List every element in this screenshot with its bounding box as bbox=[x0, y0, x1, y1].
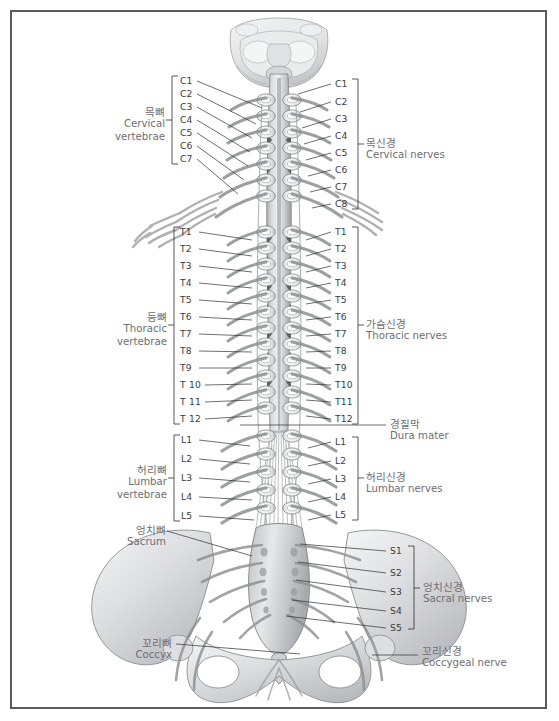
segment-label-right-s1: S1 bbox=[390, 546, 402, 556]
segment-label-left-t3: T3 bbox=[180, 261, 192, 271]
segment-label-right-t5: T5 bbox=[335, 295, 347, 305]
segment-label-right-t7: T7 bbox=[335, 329, 347, 339]
segment-label-right-c4: C4 bbox=[335, 131, 348, 141]
group-label-coccyx-kr: 꼬리뼈 bbox=[62, 637, 172, 649]
segment-label-left-t6: T6 bbox=[180, 312, 192, 322]
group-label-cervical-vertebrae: 목뼈 Cervical vertebrae bbox=[60, 106, 165, 143]
segment-label-right-t10: T10 bbox=[335, 380, 353, 390]
segment-label-left-t12: T 12 bbox=[180, 414, 201, 424]
segment-label-left-l1: L1 bbox=[181, 435, 192, 445]
group-label-thoracic-vertebrae-kr: 등뼈 bbox=[62, 311, 167, 323]
group-label-coccygeal-nerve: 꼬리신경 Coccygeal nerve bbox=[422, 645, 507, 670]
segment-label-left-c2: C2 bbox=[180, 89, 193, 99]
segment-label-left-t11: T 11 bbox=[180, 397, 201, 407]
group-label-cervical-nerves: 목신경 Cervical nerves bbox=[366, 137, 445, 162]
segment-label-right-t11: T11 bbox=[335, 397, 353, 407]
group-label-sacral-nerves-kr: 엉치신경 bbox=[423, 581, 492, 593]
group-label-lumbar-vertebrae-en: Lumbar bbox=[62, 476, 167, 488]
segment-label-right-c8: C8 bbox=[335, 199, 348, 209]
segment-label-left-t7: T7 bbox=[180, 329, 192, 339]
group-label-dura-mater-en: Dura mater bbox=[390, 430, 449, 442]
segment-label-left-t1: T1 bbox=[180, 227, 192, 237]
segment-label-left-l5: L5 bbox=[181, 511, 192, 521]
figure-page: C1 C2 C3 C4 C5 C6 C7 T1 T2 T3 T4 T5 T6 T… bbox=[0, 0, 559, 721]
group-label-lumbar-nerves: 허리신경 Lumbar nerves bbox=[366, 471, 443, 496]
group-label-coccyx-en: Coccyx bbox=[62, 649, 172, 661]
segment-label-left-c3: C3 bbox=[180, 102, 193, 112]
segment-label-right-t4: T4 bbox=[335, 278, 347, 288]
segment-label-right-t2: T2 bbox=[335, 244, 347, 254]
group-label-thoracic-vertebrae: 등뼈 Thoracic vertebrae bbox=[62, 311, 167, 348]
segment-label-left-l2: L2 bbox=[181, 454, 192, 464]
segment-label-right-t3: T3 bbox=[335, 261, 347, 271]
segment-label-right-l2: L2 bbox=[335, 456, 346, 466]
segment-label-left-c6: C6 bbox=[180, 141, 193, 151]
segment-label-left-c1: C1 bbox=[180, 76, 193, 86]
segment-label-right-s3: S3 bbox=[390, 587, 402, 597]
segment-label-right-l3: L3 bbox=[335, 474, 346, 484]
segment-label-left-t2: T2 bbox=[180, 244, 192, 254]
segment-label-left-l3: L3 bbox=[181, 473, 192, 483]
group-label-lumbar-vertebrae: 허리뼈 Lumbar vertebrae bbox=[62, 464, 167, 501]
group-label-cervical-vertebrae-en2: vertebrae bbox=[60, 131, 165, 143]
group-label-cervical-vertebrae-kr: 목뼈 bbox=[60, 106, 165, 118]
segment-label-right-c2: C2 bbox=[335, 97, 348, 107]
segment-label-left-c5: C5 bbox=[180, 128, 193, 138]
segment-label-right-s4: S4 bbox=[390, 606, 402, 616]
group-label-cervical-vertebrae-en: Cervical bbox=[60, 118, 165, 130]
group-label-thoracic-vertebrae-en: Thoracic bbox=[62, 323, 167, 335]
segment-label-left-c4: C4 bbox=[180, 115, 193, 125]
segment-label-right-l4: L4 bbox=[335, 492, 346, 502]
segment-label-right-s2: S2 bbox=[390, 568, 402, 578]
segment-label-right-l5: L5 bbox=[335, 510, 346, 520]
segment-label-right-c1: C1 bbox=[335, 79, 348, 89]
group-label-lumbar-nerves-en: Lumbar nerves bbox=[366, 483, 443, 495]
group-label-sacrum-kr: 엉치뼈 bbox=[62, 524, 166, 536]
group-label-sacral-nerves-en: Sacral nerves bbox=[423, 593, 492, 605]
segment-label-right-c5: C5 bbox=[335, 148, 348, 158]
group-label-lumbar-vertebrae-kr: 허리뼈 bbox=[62, 464, 167, 476]
segment-label-right-t12: T12 bbox=[335, 414, 353, 424]
group-label-thoracic-vertebrae-en2: vertebrae bbox=[62, 336, 167, 348]
group-label-thoracic-nerves-en: Thoracic nerves bbox=[366, 330, 447, 342]
segment-label-right-c3: C3 bbox=[335, 114, 348, 124]
segment-label-left-t9: T9 bbox=[180, 363, 192, 373]
group-label-lumbar-nerves-kr: 허리신경 bbox=[366, 471, 443, 483]
segment-label-right-c6: C6 bbox=[335, 165, 348, 175]
segment-label-left-c7: C7 bbox=[180, 154, 193, 164]
group-label-cervical-nerves-kr: 목신경 bbox=[366, 137, 445, 149]
group-label-dura-mater: 경질막 Dura mater bbox=[390, 418, 449, 443]
segment-label-right-t8: T8 bbox=[335, 346, 347, 356]
group-label-sacral-nerves: 엉치신경 Sacral nerves bbox=[423, 581, 492, 606]
segment-label-right-s5: S5 bbox=[390, 623, 402, 633]
group-label-sacrum: 엉치뼈 Sacrum bbox=[62, 524, 166, 549]
segment-label-left-t10: T 10 bbox=[180, 380, 201, 390]
segment-label-right-t9: T9 bbox=[335, 363, 347, 373]
segment-label-left-t5: T5 bbox=[180, 295, 192, 305]
segment-label-left-t4: T4 bbox=[180, 278, 192, 288]
segment-label-right-t6: T6 bbox=[335, 312, 347, 322]
group-label-lumbar-vertebrae-en2: vertebrae bbox=[62, 489, 167, 501]
group-label-thoracic-nerves-kr: 가슴신경 bbox=[366, 318, 447, 330]
segment-label-left-l4: L4 bbox=[181, 492, 192, 502]
group-label-sacrum-en: Sacrum bbox=[62, 536, 166, 548]
group-label-coccyx: 꼬리뼈 Coccyx bbox=[62, 637, 172, 662]
group-label-thoracic-nerves: 가슴신경 Thoracic nerves bbox=[366, 318, 447, 343]
segment-label-left-t8: T8 bbox=[180, 346, 192, 356]
group-label-dura-mater-kr: 경질막 bbox=[390, 418, 449, 430]
segment-label-right-t1: T1 bbox=[335, 227, 347, 237]
segment-label-right-c7: C7 bbox=[335, 182, 348, 192]
group-label-cervical-nerves-en: Cervical nerves bbox=[366, 149, 445, 161]
group-label-coccygeal-nerve-en: Coccygeal nerve bbox=[422, 657, 507, 669]
group-label-coccygeal-nerve-kr: 꼬리신경 bbox=[422, 645, 507, 657]
segment-label-right-l1: L1 bbox=[335, 437, 346, 447]
